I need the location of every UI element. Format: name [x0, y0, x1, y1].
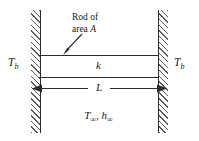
- rod-annotation-line-1: Rod of: [72, 11, 132, 23]
- rod-annotation-area-symbol: A: [90, 24, 96, 34]
- base-temp-left-subscript: b: [14, 62, 18, 71]
- rod-bottom-edge: [39, 77, 158, 78]
- rod-top-edge: [39, 55, 158, 56]
- wall-right-hatched: [158, 10, 168, 133]
- ambient-coeff-subscript: ∞: [107, 115, 113, 124]
- rod-area-annotation: Rod of area A: [72, 11, 132, 35]
- ambient-conditions-label: T∞, h∞: [39, 108, 158, 127]
- rod-conductivity-label: k: [39, 58, 158, 72]
- arrow-down-left-icon: [58, 33, 84, 57]
- base-temp-right-subscript: b: [180, 62, 184, 71]
- base-temperature-label-left: Tb: [8, 55, 18, 74]
- base-temperature-label-right: Tb: [174, 55, 184, 74]
- rod-conduction-diagram: k Tb Tb Rod of area A L T∞, h∞: [0, 0, 199, 141]
- length-dimension-label: L: [88, 80, 110, 94]
